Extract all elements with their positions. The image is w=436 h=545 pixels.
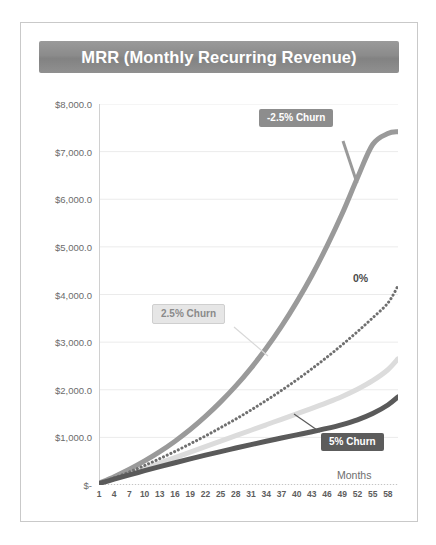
plot-area: [99, 104, 398, 485]
x-axis-tick-label: 22: [201, 489, 210, 499]
x-axis-tick-label: 4: [112, 489, 117, 499]
x-axis-tick-label: 1: [97, 489, 102, 499]
y-axis-tick-label: $2,000.0: [30, 384, 92, 395]
x-axis-tick-label: 40: [292, 489, 301, 499]
y-axis-tick-label: $6,000.0: [30, 194, 92, 205]
x-axis-tick-label: 25: [216, 489, 225, 499]
x-axis-caption: Months: [337, 469, 371, 481]
x-axis-tick-label: 10: [140, 489, 149, 499]
annotation-neg-2-5-churn: -2.5% Churn: [259, 109, 333, 127]
x-axis-tick-label: 58: [383, 489, 392, 499]
x-axis-tick-label: 43: [307, 489, 316, 499]
chart-title-banner: MRR (Monthly Recurring Revenue): [39, 41, 399, 73]
x-axis-tick-label: 37: [277, 489, 286, 499]
y-axis-tick-label: $1,000.0: [30, 432, 92, 443]
y-axis-tick-label: $5,000.0: [30, 241, 92, 252]
x-axis-tick-label: 34: [262, 489, 271, 499]
x-axis-tick-label: 7: [127, 489, 132, 499]
x-axis-labels: 1471013161922252831343740434649525558: [99, 489, 398, 503]
y-axis-tick-label: $-: [30, 480, 92, 491]
x-axis-tick-label: 46: [322, 489, 331, 499]
annotation-5-churn: 5% Churn: [321, 433, 384, 451]
x-axis-tick-label: 52: [353, 489, 362, 499]
x-axis-tick-label: 13: [155, 489, 164, 499]
series-line-0: [99, 286, 398, 483]
x-axis-tick-label: 28: [231, 489, 240, 499]
x-axis-tick-label: 55: [368, 489, 377, 499]
page-title: MRR (Monthly Recurring Revenue): [81, 48, 356, 67]
y-axis-tick-label: $7,000.0: [30, 146, 92, 157]
series-lines: [99, 104, 398, 485]
y-axis-tick-label: $8,000.0: [30, 99, 92, 110]
y-axis-tick-label: $4,000.0: [30, 289, 92, 300]
chart-card: MRR (Monthly Recurring Revenue) $8,000.0…: [20, 22, 418, 522]
y-axis-tick-label: $3,000.0: [30, 337, 92, 348]
x-axis-tick-label: 16: [170, 489, 179, 499]
annotation-2-5-churn: 2.5% Churn: [152, 304, 225, 324]
x-axis-tick-label: 31: [246, 489, 255, 499]
x-axis-tick-label: 19: [185, 489, 194, 499]
annotation-0-percent: 0%: [353, 272, 368, 284]
x-axis-tick-label: 49: [338, 489, 347, 499]
